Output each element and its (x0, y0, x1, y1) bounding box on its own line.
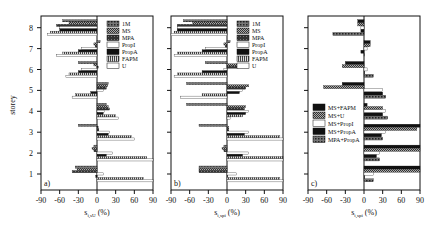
legend: MS+FAPMMS+UMS+PropIMS+PropAMPA+PropA (313, 104, 360, 143)
x-tick-label: 30 (242, 196, 250, 205)
x-tick-label: -30 (73, 196, 84, 205)
bar-1m (63, 20, 97, 22)
y-tick-label: 3 (29, 128, 33, 137)
bar-propa (91, 92, 97, 94)
bar-ms-propi (361, 26, 364, 29)
panel-tag: b) (174, 179, 181, 188)
bar-ms (199, 168, 227, 170)
bar-ms-u (358, 23, 364, 26)
legend-label: U (122, 63, 127, 69)
x-tick-label: 60 (397, 196, 405, 205)
bar-propa (227, 92, 239, 94)
bar-1m (75, 166, 97, 168)
bar-ms (94, 43, 97, 45)
bar-1m (187, 103, 227, 105)
bar-fapm (97, 177, 144, 179)
bar-mpa (97, 66, 98, 68)
legend-swatch (107, 35, 119, 41)
x-axis-label: si,spi (%) (351, 208, 377, 219)
bar-propa (227, 154, 243, 156)
bar-mpa-propa (364, 158, 380, 161)
bar-ms (227, 106, 246, 108)
bar-fapm (97, 115, 116, 117)
bar-fapm (177, 52, 227, 54)
bar-ms-u (324, 86, 364, 89)
bar-fapm (202, 94, 227, 96)
x-tick-label: -90 (36, 196, 47, 205)
bar-1m (78, 62, 97, 64)
bar-mpa (57, 24, 97, 26)
bar-ms-u (364, 44, 370, 47)
bar-propi (227, 152, 249, 154)
bar-ms-fapm (364, 124, 420, 127)
bar-u (97, 138, 134, 140)
legend-label: PropI (252, 42, 265, 48)
bar-ms-propa (364, 176, 365, 179)
bar-mpa (227, 129, 229, 131)
legend: 1MMSMPAPropIPropAFAPMU (237, 21, 269, 69)
bar-1m (187, 82, 227, 84)
bar-u (72, 96, 97, 98)
legend-swatch (313, 104, 325, 111)
legend-swatch (313, 136, 325, 143)
bar-mpa (97, 108, 109, 110)
bar-mpa-propa (364, 179, 373, 182)
bar-ms (227, 85, 249, 87)
bar-fapm (63, 52, 97, 54)
bar-1m (97, 82, 108, 84)
legend-label: MS+PropA (328, 129, 356, 135)
bar-propa (78, 50, 97, 52)
x-tick-label: -60 (321, 196, 332, 205)
bar-propi (97, 152, 113, 154)
legend-label: PropA (252, 49, 268, 55)
bar-propa (97, 154, 106, 156)
bar-propi (227, 89, 243, 91)
legend-swatch (313, 128, 325, 135)
bar-u (174, 75, 227, 77)
y-tick-label: 4 (29, 107, 33, 116)
bar-mpa-propa (364, 137, 383, 140)
x-tick-label: 90 (279, 196, 287, 205)
bar-u (57, 54, 97, 56)
bar-propa (227, 112, 246, 114)
bar-u (97, 117, 119, 119)
bar-fapm (174, 31, 227, 33)
x-tick-label: -30 (203, 196, 214, 205)
legend-swatch (237, 35, 249, 41)
bar-ms-u (364, 127, 417, 130)
x-tick-label: -60 (54, 196, 65, 205)
x-tick-label: -90 (166, 196, 177, 205)
bar-1m (183, 20, 227, 22)
bar-mpa (227, 66, 238, 68)
bar-1m (205, 62, 227, 64)
bar-propa (202, 50, 227, 52)
bar-propa (60, 29, 97, 31)
bar-1m (97, 103, 106, 105)
x-axis-label: si,spi (%) (214, 208, 240, 219)
bar-ms-propa (364, 71, 365, 74)
legend-swatch (107, 42, 119, 48)
bar-propi (97, 131, 109, 133)
bar-ms-propi (364, 68, 367, 71)
bar-fapm (97, 157, 147, 159)
bar-u (97, 180, 153, 182)
x-tick-label: -30 (340, 196, 351, 205)
bar-mpa (97, 129, 99, 131)
bar-mpa (227, 108, 244, 110)
panel-tag: c) (311, 179, 318, 188)
x-tick-label: 30 (112, 196, 120, 205)
bar-u (171, 33, 227, 35)
bar-propa (227, 133, 244, 135)
bar-propi (227, 131, 249, 133)
bar-mpa-propa (364, 95, 386, 98)
bar-mpa (94, 150, 97, 152)
bar-fapm (227, 115, 243, 117)
bar-u (227, 138, 283, 140)
bar-propi (224, 68, 227, 70)
legend-swatch (107, 21, 119, 27)
bar-ms (193, 22, 227, 24)
y-tick-label: 2 (29, 149, 33, 158)
x-tick-label: 90 (149, 196, 157, 205)
bar-ms-propa (364, 134, 381, 137)
bar-mpa (199, 171, 227, 173)
